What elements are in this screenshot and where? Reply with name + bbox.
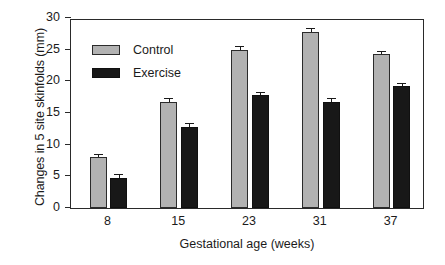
error-bar-cap (164, 98, 173, 99)
x-axis-tick-label: 23 (242, 214, 256, 228)
bar-control-15w (160, 102, 177, 208)
skinfold-bar-chart-figure: Changes in 5 site skinfolds (mm) 0510152… (0, 0, 445, 265)
error-bar-stem (189, 124, 190, 127)
error-bar-stem (260, 93, 261, 95)
y-axis-tick-label: 25 (46, 42, 60, 56)
bar-control-31w (302, 32, 319, 208)
y-axis-tick-label: 0 (53, 200, 60, 214)
y-axis-tick-label: 10 (46, 137, 60, 151)
error-bar-stem (402, 84, 403, 86)
legend-label: Exercise (133, 66, 181, 80)
error-bar-stem (169, 99, 170, 102)
error-bar-stem (331, 99, 332, 102)
error-bar-stem (98, 155, 99, 158)
error-bar-stem (381, 52, 382, 55)
y-axis-title: Changes in 5 site skinfolds (mm) (33, 7, 47, 227)
error-bar-cap (185, 123, 194, 124)
legend-label: Control (133, 43, 173, 57)
bar-exercise-15w (181, 127, 198, 208)
x-axis-tick-label: 31 (313, 214, 327, 228)
bar-control-37w (373, 54, 390, 208)
error-bar-cap (256, 92, 265, 93)
bar-exercise-8w (110, 178, 127, 208)
legend-item-exercise: Exercise (92, 61, 181, 84)
legend-swatch-control (92, 45, 120, 55)
bar-exercise-23w (252, 95, 269, 208)
error-bar-cap (94, 154, 103, 155)
x-axis-tick-label: 15 (171, 214, 185, 228)
bar-control-8w (90, 157, 107, 208)
error-bar-cap (235, 46, 244, 47)
error-bar-cap (327, 98, 336, 99)
y-axis-tick-label: 15 (46, 105, 60, 119)
error-bar-cap (114, 174, 123, 175)
legend-swatch-exercise (92, 68, 120, 78)
legend-item-control: Control (92, 38, 181, 61)
error-bar-stem (119, 175, 120, 177)
error-bar-stem (311, 29, 312, 32)
x-axis-title: Gestational age (weeks) (70, 237, 424, 251)
x-axis-tick-label: 37 (384, 214, 398, 228)
bar-exercise-31w (323, 102, 340, 208)
chart-legend: ControlExercise (92, 38, 181, 84)
error-bar-cap (397, 83, 406, 84)
y-axis-tick-label: 30 (46, 10, 60, 24)
error-bar-stem (240, 47, 241, 50)
y-axis-tick: 30 (65, 17, 71, 18)
y-axis-tick-label: 20 (46, 73, 60, 87)
bar-exercise-37w (393, 86, 410, 208)
error-bar-cap (306, 28, 315, 29)
bar-control-23w (231, 50, 248, 208)
error-bar-cap (377, 51, 386, 52)
x-axis-tick-label: 8 (104, 214, 111, 228)
y-axis-tick-label: 5 (53, 168, 60, 182)
